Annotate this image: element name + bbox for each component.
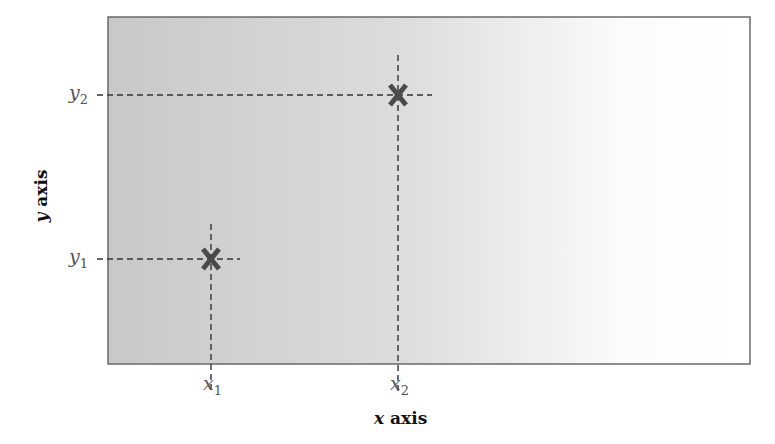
x-axis-title: x axis bbox=[374, 408, 427, 428]
x1-tick-label: x1 bbox=[203, 372, 222, 398]
y2-tick-label: y2 bbox=[69, 81, 88, 107]
y1-tick-label: y1 bbox=[69, 245, 88, 271]
coordinate-diagram bbox=[0, 0, 775, 444]
y-axis-title: y axis bbox=[31, 161, 51, 231]
plot-area bbox=[108, 17, 750, 364]
x2-tick-label: x2 bbox=[390, 372, 409, 398]
